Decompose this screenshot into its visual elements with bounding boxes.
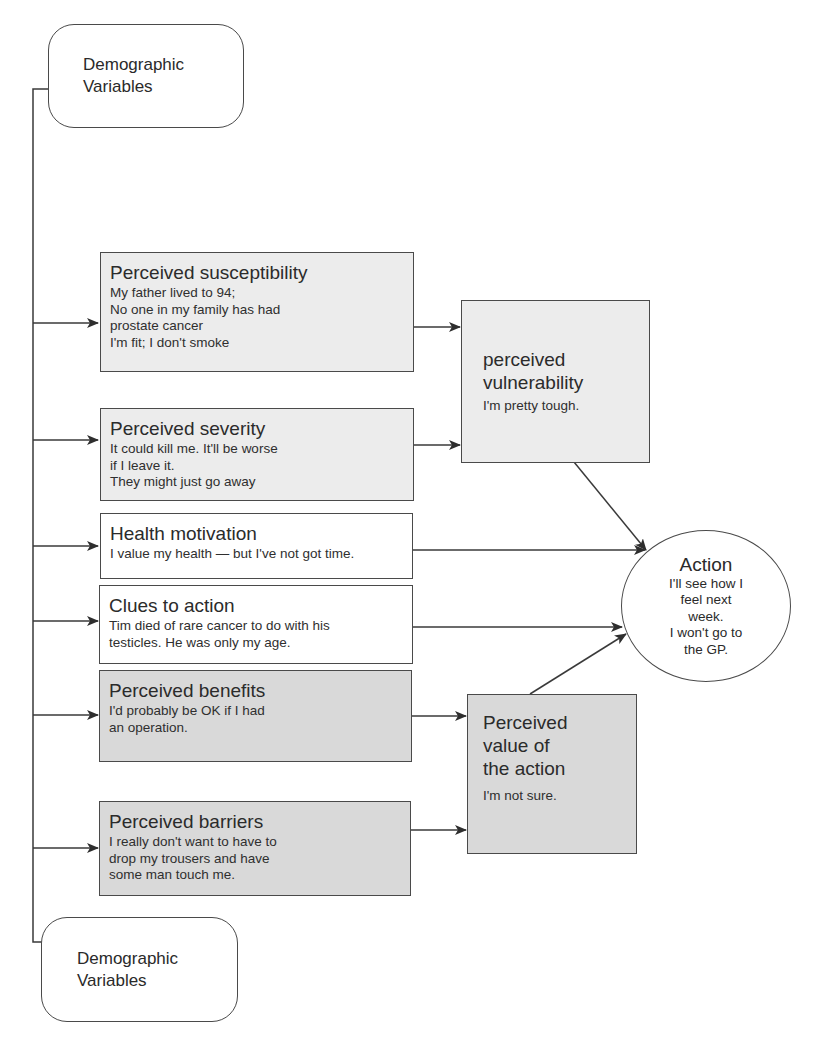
demographic-bottom-line-2: Variables <box>77 970 237 992</box>
value-title-line: the action <box>483 757 636 780</box>
value-title: Perceived value of the action <box>483 711 636 780</box>
value-title-line: Perceived <box>483 711 636 734</box>
factor-body-line: prostate cancer <box>110 318 413 335</box>
factor-perceived-severity: Perceived severity It could kill me. It'… <box>100 408 414 501</box>
action-body-line: I'll see how I <box>661 576 751 593</box>
factor-body-line: if I leave it. <box>110 458 413 475</box>
action-body-line: feel next <box>661 592 751 609</box>
demographic-bottom-line-1: Demographic <box>77 948 237 970</box>
factor-body: I really don't want to have to drop my t… <box>109 834 410 884</box>
factor-body: I value my health — but I've not got tim… <box>110 546 412 563</box>
factor-clues-to-action: Clues to action Tim died of rare cancer … <box>99 585 413 664</box>
factor-body: It could kill me. It'll be worse if I le… <box>110 441 413 491</box>
demographic-variables-top: Demographic Variables <box>48 24 244 128</box>
factor-title: Perceived barriers <box>109 811 410 833</box>
vulnerability-title-line: perceived <box>483 348 649 371</box>
demographic-top-line-2: Variables <box>83 76 243 98</box>
factor-health-motivation: Health motivation I value my health — bu… <box>100 513 413 579</box>
factor-body-line: Tim died of rare cancer to do with his <box>109 618 412 635</box>
value-title-line: value of <box>483 734 636 757</box>
action-body-line: week. <box>661 609 751 626</box>
factor-body-line: They might just go away <box>110 474 413 491</box>
action-circle: Action I'll see how I feel next week. I … <box>621 530 791 682</box>
factor-perceived-susceptibility: Perceived susceptibility My father lived… <box>100 252 414 372</box>
factor-body-line: I really don't want to have to <box>109 834 410 851</box>
factor-body-line: I'd probably be OK if I had <box>109 703 411 720</box>
factor-perceived-benefits: Perceived benefits I'd probably be OK if… <box>99 670 412 762</box>
demographic-variables-bottom: Demographic Variables <box>41 917 238 1022</box>
factor-body-line: some man touch me. <box>109 867 410 884</box>
factor-body: My father lived to 94; No one in my fami… <box>110 285 413 351</box>
value-body: I'm not sure. <box>483 788 636 805</box>
factor-title: Clues to action <box>109 595 412 617</box>
action-body: I'll see how I feel next week. I won't g… <box>661 576 751 659</box>
factor-body-line: It could kill me. It'll be worse <box>110 441 413 458</box>
vulnerability-body: I'm pretty tough. <box>483 398 649 415</box>
factor-body-line: My father lived to 94; <box>110 285 413 302</box>
action-body-line: the GP. <box>661 642 751 659</box>
perceived-vulnerability-box: perceived vulnerability I'm pretty tough… <box>461 300 650 463</box>
action-body-line: I won't go to <box>661 625 751 642</box>
vulnerability-title: perceived vulnerability <box>483 348 649 394</box>
action-title: Action <box>680 554 733 576</box>
factor-body-line: I'm fit; I don't smoke <box>110 335 413 352</box>
demographic-top-line-1: Demographic <box>83 54 243 76</box>
diagram-canvas: Demographic Variables Perceived suscepti… <box>0 0 813 1050</box>
factor-body-line: drop my trousers and have <box>109 851 410 868</box>
factor-body-line: No one in my family has had <box>110 302 413 319</box>
factor-body-line: an operation. <box>109 720 411 737</box>
perceived-value-box: Perceived value of the action I'm not su… <box>467 694 637 854</box>
factor-title: Perceived severity <box>110 418 413 440</box>
factor-body-line: I value my health — but I've not got tim… <box>110 546 412 563</box>
factor-title: Perceived susceptibility <box>110 262 413 284</box>
factor-body: I'd probably be OK if I had an operation… <box>109 703 411 736</box>
factor-body-line: testicles. He was only my age. <box>109 635 412 652</box>
factor-perceived-barriers: Perceived barriers I really don't want t… <box>99 801 411 896</box>
factor-body: Tim died of rare cancer to do with his t… <box>109 618 412 651</box>
factor-title: Perceived benefits <box>109 680 411 702</box>
vulnerability-title-line: vulnerability <box>483 371 649 394</box>
factor-title: Health motivation <box>110 523 412 545</box>
